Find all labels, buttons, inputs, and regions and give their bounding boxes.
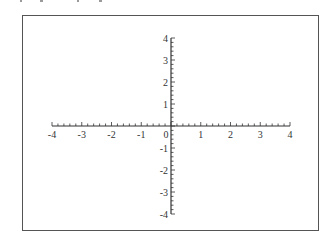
y-tick-label: -2 <box>160 165 168 176</box>
x-tick-label: 2 <box>228 129 233 140</box>
x-tick-label: -3 <box>78 129 86 140</box>
x-tick-label: 4 <box>288 129 293 140</box>
y-tick-label: -3 <box>160 187 168 198</box>
y-tick-label: 4 <box>163 33 168 44</box>
x-tick-label: 3 <box>258 129 263 140</box>
y-tick-label: 1 <box>163 99 168 110</box>
y-tick-label: -4 <box>160 209 168 220</box>
y-tick-label: 2 <box>163 77 168 88</box>
x-tick-label: -1 <box>137 129 145 140</box>
plot-area: -4-3-2-101234 4321-1-2-3-4 <box>0 0 328 235</box>
x-tick-label: -2 <box>107 129 115 140</box>
x-tick-label: 0 <box>164 129 169 140</box>
axes <box>52 38 290 214</box>
x-tick-label: 1 <box>198 129 203 140</box>
x-tick-label: -4 <box>48 129 56 140</box>
y-tick-label: -1 <box>160 143 168 154</box>
x-axis-tick-labels: -4-3-2-101234 <box>48 129 293 140</box>
y-tick-label: 3 <box>163 55 168 66</box>
